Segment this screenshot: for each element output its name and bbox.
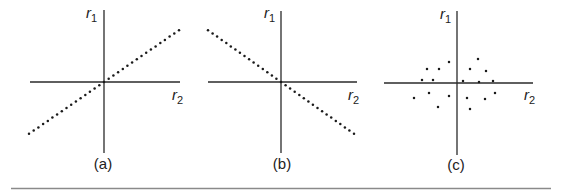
data-point xyxy=(37,126,40,128)
data-point xyxy=(469,108,472,111)
data-point xyxy=(275,78,278,81)
data-point xyxy=(280,81,283,84)
data-point xyxy=(150,48,153,51)
data-point xyxy=(335,120,338,123)
data-point xyxy=(131,61,134,64)
data-point xyxy=(298,94,301,97)
data-point xyxy=(348,129,351,132)
data-point xyxy=(173,32,176,35)
panel-c-y-axis-label: r1 xyxy=(440,5,451,25)
data-point xyxy=(303,97,306,100)
data-point xyxy=(220,39,223,42)
data-point xyxy=(462,80,465,83)
panel-b-x-axis-label: r2 xyxy=(348,86,359,106)
data-point xyxy=(293,90,296,93)
data-point xyxy=(484,98,487,101)
data-point xyxy=(426,68,429,71)
data-point xyxy=(469,68,472,71)
panel-c: r1 r2 (c) xyxy=(384,5,535,173)
data-point xyxy=(485,70,488,73)
data-point xyxy=(207,29,210,32)
data-point xyxy=(428,92,431,95)
data-point xyxy=(230,45,233,48)
data-point xyxy=(316,107,319,110)
data-point xyxy=(103,81,106,84)
data-point xyxy=(216,35,219,38)
data-point xyxy=(47,120,50,123)
data-point xyxy=(243,55,246,58)
data-point xyxy=(122,68,125,71)
data-point xyxy=(466,97,469,100)
panel-c-caption: (c) xyxy=(447,156,465,173)
data-point xyxy=(478,81,481,84)
data-point xyxy=(437,106,440,109)
data-point xyxy=(266,71,269,74)
data-point xyxy=(42,123,45,126)
data-point xyxy=(159,42,162,45)
data-point xyxy=(477,58,480,61)
data-point xyxy=(252,61,255,64)
data-point xyxy=(145,52,148,55)
data-point xyxy=(325,113,328,116)
panel-a: r1 r2 (a) xyxy=(28,4,183,172)
data-point xyxy=(284,84,287,87)
data-point xyxy=(140,55,143,58)
panel-b-y-axis-label: r1 xyxy=(264,4,275,24)
data-point xyxy=(239,52,242,55)
data-point xyxy=(178,29,181,32)
data-point xyxy=(421,79,424,82)
panel-c-x-axis-label: r2 xyxy=(524,86,535,106)
data-point xyxy=(438,68,441,71)
data-point xyxy=(32,129,35,132)
data-point xyxy=(65,107,68,110)
panel-b-caption: (b) xyxy=(273,155,291,172)
data-point xyxy=(56,113,59,116)
data-point xyxy=(432,79,435,82)
data-point xyxy=(353,133,356,136)
data-point xyxy=(211,32,214,35)
data-point xyxy=(107,78,110,81)
data-point xyxy=(112,74,115,77)
data-point xyxy=(98,84,101,87)
data-point xyxy=(262,68,265,71)
panel-b: r1 r2 (b) xyxy=(207,4,359,172)
data-point xyxy=(312,103,315,106)
data-point xyxy=(492,80,495,83)
data-point xyxy=(61,110,64,113)
data-point xyxy=(225,42,228,45)
data-point xyxy=(84,94,87,97)
correlation-figure: r1 r2 (a) r1 r2 (b) r1 r2 (c) xyxy=(0,0,563,195)
data-point xyxy=(248,58,251,61)
data-point xyxy=(89,90,92,93)
data-point xyxy=(164,39,167,42)
panel-a-x-axis-label: r2 xyxy=(172,86,183,106)
panel-a-caption: (a) xyxy=(94,155,112,172)
data-point xyxy=(448,61,451,64)
data-point xyxy=(321,110,324,113)
panel-c-scatter-points xyxy=(413,58,497,111)
data-point xyxy=(126,65,128,68)
data-point xyxy=(339,123,342,126)
data-point xyxy=(75,100,78,103)
data-point xyxy=(93,87,96,90)
data-point xyxy=(168,35,171,38)
data-point xyxy=(307,100,310,103)
data-point xyxy=(70,103,73,106)
data-point xyxy=(271,74,274,77)
data-point xyxy=(413,97,416,100)
data-point xyxy=(51,116,54,119)
data-point xyxy=(257,65,260,68)
data-point xyxy=(344,126,347,128)
data-point xyxy=(136,58,139,61)
data-point xyxy=(289,87,292,90)
data-point xyxy=(448,95,451,98)
data-point xyxy=(117,71,120,74)
data-point xyxy=(330,116,333,119)
data-point xyxy=(494,92,497,95)
data-point xyxy=(79,97,82,100)
data-point xyxy=(154,45,157,48)
data-point xyxy=(28,133,31,136)
data-point xyxy=(234,48,237,51)
panel-a-y-axis-label: r1 xyxy=(86,4,97,24)
